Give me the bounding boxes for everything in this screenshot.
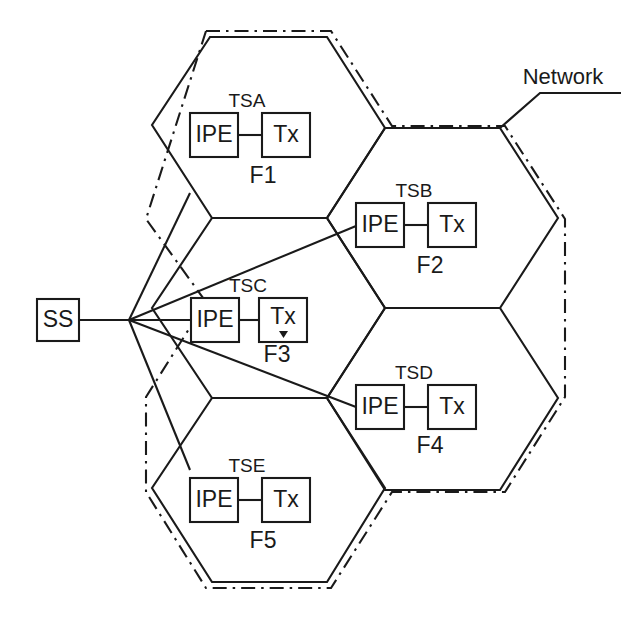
network-leader-line — [500, 93, 621, 128]
ipe-box-label-f3: IPE — [196, 306, 233, 332]
tx-box-label-f3: Tx — [270, 303, 296, 329]
tx-box-label-f4: Tx — [439, 393, 465, 419]
ts-label-f1: TSA — [229, 90, 266, 111]
link-ss-to-tsb — [129, 226, 356, 320]
ts-label-f4: TSD — [395, 362, 433, 383]
tx-box-label-f2: Tx — [439, 211, 465, 237]
ss-node: SS — [37, 299, 79, 341]
ts-label-f2: TSB — [396, 180, 433, 201]
ts-label-f3: TSC — [229, 275, 267, 296]
network-leader-group — [500, 93, 621, 128]
tx-box-label-f1: Tx — [273, 121, 299, 147]
cell-contents-f3: IPE Tx TSC F3 — [191, 275, 307, 367]
cell-contents-f2: IPE Tx TSB F2 — [356, 180, 476, 278]
cell-label-f4: F4 — [417, 432, 444, 458]
diagram-canvas: SS IPE Tx TSA F1 IPE Tx TSB F2 IPE Tx TS… — [0, 0, 639, 620]
cell-contents-f1: IPE Tx TSA F1 — [190, 90, 310, 188]
ipe-box-label-f2: IPE — [361, 211, 398, 237]
cell-contents-f5: IPE Tx TSE F5 — [190, 455, 310, 553]
cell-contents-f4: IPE Tx TSD F4 — [356, 362, 476, 458]
cellular-network-diagram: SS IPE Tx TSA F1 IPE Tx TSB F2 IPE Tx TS… — [0, 0, 639, 620]
link-ss-to-tsa — [129, 193, 190, 320]
network-label: Network — [523, 64, 605, 89]
ipe-box-label-f5: IPE — [195, 486, 232, 512]
ipe-box-label-f4: IPE — [361, 393, 398, 419]
tx-box-label-f5: Tx — [273, 486, 299, 512]
ipe-box-label-f1: IPE — [195, 121, 232, 147]
cell-label-f3: F3 — [264, 341, 291, 367]
cell-label-f5: F5 — [250, 527, 277, 553]
link-ss-to-tsd — [129, 320, 356, 407]
cell-label-f2: F2 — [417, 252, 444, 278]
cell-label-f1: F1 — [250, 162, 277, 188]
ss-box-label: SS — [43, 306, 74, 332]
ts-label-f5: TSE — [229, 455, 266, 476]
